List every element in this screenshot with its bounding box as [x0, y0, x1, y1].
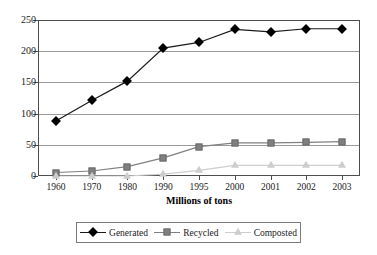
chart-legend: GeneratedRecycledComposted	[76, 222, 301, 243]
legend-item-recycled[interactable]: Recycled	[154, 228, 218, 238]
legend-label: Generated	[109, 228, 148, 238]
legend-swatch-square-icon	[154, 228, 180, 237]
legend-marker-diamond-icon	[88, 227, 98, 237]
legend-swatch-triangle-icon	[225, 228, 251, 237]
chart-figure: 050100150200250 196019701980199019952000…	[0, 0, 377, 255]
legend-label: Recycled	[183, 228, 218, 238]
legend-marker-square-icon	[164, 229, 171, 236]
legend-item-generated[interactable]: Generated	[80, 228, 148, 238]
legend-label: Composted	[254, 228, 297, 238]
legend-item-composted[interactable]: Composted	[225, 228, 297, 238]
legend-swatch-diamond-icon	[80, 228, 106, 237]
series-lines	[0, 0, 377, 255]
legend-marker-triangle-icon	[234, 228, 242, 235]
series-line-generated	[56, 29, 342, 121]
series-line-recycled	[56, 142, 342, 173]
